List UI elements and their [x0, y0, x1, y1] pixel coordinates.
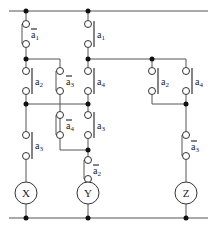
svg-text:a4: a4 — [97, 76, 105, 89]
contact-a3-x: a3 — [23, 132, 44, 160]
svg-text:a3: a3 — [66, 76, 74, 89]
svg-text:X: X — [22, 187, 30, 199]
svg-text:a4: a4 — [195, 76, 203, 89]
svg-text:a4: a4 — [66, 120, 74, 133]
contact-not-a2: a2 — [84, 157, 101, 183]
coil-x: X — [15, 182, 37, 204]
svg-text:a2: a2 — [161, 76, 169, 89]
coil-y: Y — [77, 182, 99, 204]
branch-z: a2 a4 a3 Z — [149, 59, 204, 218]
relay-ladder-diagram: a1 a2 a3 X a3 — [0, 0, 212, 227]
contact-not-a1: a1 — [22, 21, 39, 48]
junction-nodes — [24, 9, 189, 221]
svg-text:a3: a3 — [97, 120, 105, 133]
diagram-svg: a1 a2 a3 X a3 — [0, 0, 212, 227]
branch-y: a1 a4 a3 a2 Y — [77, 11, 152, 218]
label-not-a1: a1 — [31, 29, 39, 42]
contact-a1: a1 — [85, 21, 106, 48]
svg-text:a2: a2 — [35, 76, 43, 89]
svg-text:a3: a3 — [35, 140, 43, 153]
contact-not-a4: a4 — [56, 112, 74, 139]
contact-not-a3: a3 — [56, 68, 74, 95]
svg-text:a3: a3 — [191, 141, 199, 154]
contact-a2: a2 — [23, 68, 44, 95]
contact-a3-y: a3 — [85, 112, 106, 139]
branch-x: a1 a2 a3 X — [15, 11, 88, 218]
contact-a4-y: a4 — [85, 68, 106, 95]
contact-a4-z: a4 — [183, 68, 204, 95]
svg-text:a2: a2 — [93, 165, 101, 178]
contact-a2-z: a2 — [149, 68, 170, 95]
contact-not-a3-z: a3 — [182, 132, 199, 160]
coil-z: Z — [175, 182, 197, 204]
svg-text:Z: Z — [183, 187, 190, 199]
svg-text:a1: a1 — [97, 29, 105, 42]
svg-text:Y: Y — [84, 187, 92, 199]
